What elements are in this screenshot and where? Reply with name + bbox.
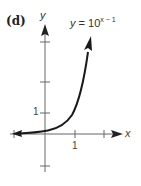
curve-y-10-pow-x-minus-1 xyxy=(18,52,88,134)
curve-right-arrow-icon xyxy=(84,36,92,51)
plot-area xyxy=(0,0,141,186)
